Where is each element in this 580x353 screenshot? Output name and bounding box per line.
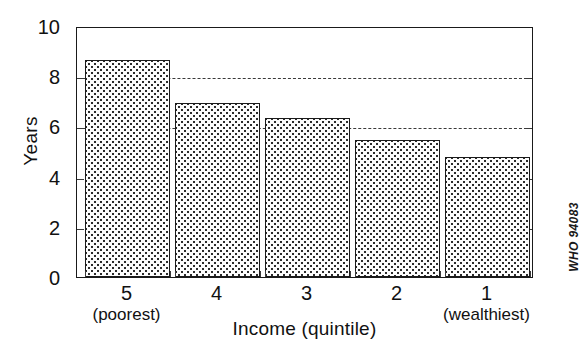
- x-tick-mark: [355, 271, 356, 277]
- y-axis-tick-labels: 10 8 6 4 2 0: [0, 0, 68, 353]
- x-tick-mark: [530, 271, 531, 277]
- y-tick-label: 0: [0, 268, 68, 288]
- x-axis-title: Income (quintile): [76, 318, 533, 340]
- x-tick-quintile-4: 4: [166, 281, 267, 305]
- bar-quintile-4: [175, 103, 260, 277]
- bar-quintile-3: [265, 118, 350, 277]
- x-tick-mark: [445, 271, 446, 277]
- x-tick-mark: [265, 271, 266, 277]
- x-tick-label: 5: [76, 281, 177, 305]
- x-tick-quintile-3: 3: [256, 281, 357, 305]
- y-tick-label: 8: [0, 67, 68, 87]
- x-tick-label: 1: [436, 281, 537, 305]
- y-tick-mark: [525, 128, 532, 129]
- x-tick-mark: [170, 271, 171, 277]
- y-tick-mark: [77, 179, 84, 180]
- y-tick-label: 6: [0, 117, 68, 137]
- y-tick-label: 4: [0, 168, 68, 188]
- bar-quintile-5: [85, 60, 170, 277]
- plot-area: [76, 27, 533, 278]
- x-tick-label: 4: [166, 281, 267, 305]
- bar-chart-figure: Years 10 8 6 4 2 0: [0, 0, 580, 353]
- x-tick-quintile-2: 2: [346, 281, 447, 305]
- x-tick-mark: [350, 271, 351, 277]
- y-tick-mark: [525, 78, 532, 79]
- bar-quintile-1: [445, 157, 530, 277]
- figure-credit: WHO 94083: [567, 182, 580, 292]
- x-tick-mark: [175, 271, 176, 277]
- x-tick-label: 3: [256, 281, 357, 305]
- y-tick-label: 10: [0, 17, 68, 37]
- y-tick-mark: [77, 229, 84, 230]
- y-tick-mark: [77, 128, 84, 129]
- x-tick-mark: [260, 271, 261, 277]
- y-tick-mark: [77, 78, 84, 79]
- x-tick-mark: [440, 271, 441, 277]
- bar-quintile-2: [355, 140, 440, 277]
- x-tick-label: 2: [346, 281, 447, 305]
- x-tick-mark: [85, 271, 86, 277]
- y-tick-label: 2: [0, 218, 68, 238]
